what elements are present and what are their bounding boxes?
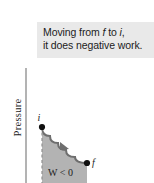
process-direction-arrow-icon xyxy=(60,142,69,150)
pressure-volume-diagram: Moving from f to i, it does negative wor… xyxy=(0,0,154,183)
plot-canvas: i f W < 0 xyxy=(0,0,154,183)
work-label: W < 0 xyxy=(48,167,73,178)
point-i-label: i xyxy=(38,112,41,123)
point-f-label: f xyxy=(92,157,96,168)
point-f-marker xyxy=(84,160,90,166)
point-i-marker xyxy=(39,124,45,130)
